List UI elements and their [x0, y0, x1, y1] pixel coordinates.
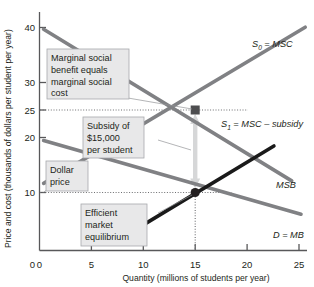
curve-label-msb: MSB — [276, 180, 296, 190]
y-tick-label-25: 25 — [24, 105, 35, 116]
callout-efficient-market-equilibrium-line-3: equilibrium — [85, 232, 129, 242]
y-tick-label-0: 0 — [30, 259, 35, 270]
x-axis-tick-labels: 0 5 10 15 20 25 — [37, 259, 304, 270]
curve-label-s1: S1 = MSC – subsidy — [221, 119, 304, 131]
callout-subsidy-amount-line-1: Subsidy of — [87, 121, 130, 131]
y-axis-title: Price and cost (thousands of dollars per… — [3, 29, 13, 248]
callout-msb-equals-msc-line-2: benefit equals — [51, 65, 108, 75]
svg-text:S0 = MSC: S0 = MSC — [252, 39, 293, 51]
y-tick-label-20: 20 — [24, 132, 35, 143]
svg-text:S1 = MSC – subsidy: S1 = MSC – subsidy — [221, 119, 304, 131]
callout-dollar-price-line-2: price — [50, 177, 70, 187]
supply-demand-subsidy-chart: Price and cost (thousands of dollars per… — [0, 0, 314, 287]
x-tick-label-25: 25 — [294, 259, 305, 270]
svg-text:D = MB: D = MB — [273, 230, 304, 240]
callout-dollar-price-line-1: Dollar — [50, 165, 74, 175]
x-tick-label-10: 10 — [138, 259, 149, 270]
curve-label-s0-rest: = MSC — [262, 39, 293, 49]
callout-msb-equals-msc-line-1: Marginal social — [51, 53, 112, 63]
y-axis-tick-labels: 40 30 25 20 10 0 — [24, 22, 35, 270]
leader-equilibrium — [158, 195, 192, 213]
callout-subsidy-amount: Subsidy of $15,000 per student — [83, 117, 144, 158]
y-tick-label-10: 10 — [24, 187, 35, 198]
curve-label-s0: S0 = MSC — [252, 39, 293, 51]
market-equilibrium-point — [191, 188, 200, 197]
curve-label-dmb: D = MB — [273, 230, 304, 240]
x-tick-label-0: 0 — [37, 259, 42, 270]
curve-label-msb-text: MSB — [276, 180, 296, 190]
x-tick-label-15: 15 — [190, 259, 201, 270]
curve-supply-s1-msc-minus-subsidy — [139, 146, 274, 227]
x-tick-label-5: 5 — [89, 259, 94, 270]
efficient-quantity-point — [191, 106, 200, 115]
callout-efficient-market-equilibrium-line-2: market — [85, 220, 113, 230]
curve-label-s1-rest: = MSC – subsidy — [231, 119, 305, 129]
x-axis-title: Quantity (millions of students per year) — [122, 273, 269, 283]
y-tick-label-30: 30 — [24, 77, 35, 88]
callout-msb-equals-msc-line-3: marginal social — [51, 77, 112, 87]
callout-efficient-market-equilibrium: Efficient market equilibrium — [81, 204, 147, 246]
y-tick-label-40: 40 — [24, 22, 35, 33]
callout-subsidy-amount-line-3: per student — [87, 145, 133, 155]
callout-msb-equals-msc-line-4: cost — [51, 88, 68, 98]
x-tick-label-20: 20 — [242, 259, 253, 270]
curve-label-dmb-rest: = MB — [280, 230, 304, 240]
callout-dollar-price: Dollar price — [46, 161, 88, 191]
callout-subsidy-amount-line-2: $15,000 — [87, 133, 120, 143]
callout-efficient-market-equilibrium-line-1: Efficient — [85, 208, 118, 218]
callout-msb-equals-msc: Marginal social benefit equals marginal … — [47, 49, 129, 99]
leader-subsidy — [158, 140, 191, 150]
